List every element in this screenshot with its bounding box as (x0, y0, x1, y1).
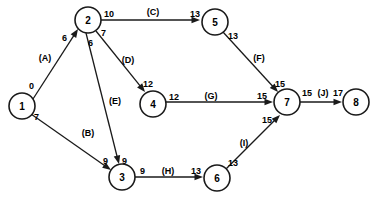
edge-tail-value: 6 (88, 38, 93, 48)
node-7[interactable]: 7 (274, 89, 300, 115)
edge-head-value: 15 (257, 91, 267, 101)
edge-f[interactable]: (F)1315 (223, 31, 285, 92)
edge-line (33, 35, 74, 99)
node-8[interactable]: 8 (343, 89, 369, 115)
activity-label: (I) (240, 138, 249, 148)
activity-label: (C) (147, 7, 160, 17)
edge-tail-value: 0 (29, 81, 34, 91)
activity-label: (H) (162, 166, 175, 176)
node-label: 2 (85, 15, 91, 26)
edge-d[interactable]: (D)712 (96, 28, 153, 92)
diagram-svg: (A)06(B)79(C)1013(D)712(E)69(F)1315(G)12… (0, 0, 380, 208)
edge-tail-value: 7 (34, 112, 39, 122)
activity-label: (B) (82, 128, 95, 138)
edge-head-value: 17 (333, 88, 343, 98)
edge-tail-value: 15 (302, 88, 312, 98)
edge-h[interactable]: (H)913 (135, 166, 203, 180)
arrow-head (334, 99, 343, 106)
network-diagram-canvas: (A)06(B)79(C)1013(D)712(E)69(F)1315(G)12… (0, 0, 380, 208)
edge-head-value: 9 (103, 156, 108, 166)
edge-b[interactable]: (B)79 (31, 112, 111, 170)
activity-label: (A) (39, 53, 52, 63)
node-6[interactable]: 6 (204, 165, 230, 191)
edge-head-value: 13 (191, 166, 201, 176)
activity-label: (G) (205, 91, 218, 101)
edge-head-value: 15 (275, 79, 285, 89)
edge-e[interactable]: (E)69 (86, 33, 127, 166)
edge-i[interactable]: (I)1315 (226, 115, 280, 169)
edge-c[interactable]: (C)1013 (101, 7, 200, 23)
edge-tail-value: 10 (104, 9, 114, 19)
node-label: 5 (212, 17, 218, 28)
edge-tail-value: 7 (101, 28, 106, 38)
node-label: 4 (150, 99, 156, 110)
node-3[interactable]: 3 (109, 164, 135, 190)
node-2[interactable]: 2 (75, 7, 101, 33)
edge-head-value: 6 (62, 33, 67, 43)
edge-a[interactable]: (A)06 (29, 29, 78, 99)
activity-label: (E) (109, 96, 121, 106)
activity-label: (F) (253, 53, 265, 63)
node-label: 7 (284, 97, 290, 108)
edge-tail-value: 13 (228, 158, 238, 168)
edge-tail-value: 12 (169, 92, 179, 102)
node-4[interactable]: 4 (140, 91, 166, 117)
activity-label: (J) (318, 88, 329, 98)
activity-label: (D) (122, 55, 135, 65)
edge-tail-value: 9 (140, 166, 145, 176)
arrow-head (114, 155, 120, 164)
edge-g[interactable]: (G)1215 (166, 91, 273, 105)
node-1[interactable]: 1 (9, 93, 35, 119)
node-label: 3 (119, 172, 125, 183)
node-label: 6 (214, 173, 220, 184)
edge-line (31, 114, 105, 166)
arrow-head (71, 29, 78, 38)
edge-head-value: 12 (143, 79, 153, 89)
node-5[interactable]: 5 (202, 9, 228, 35)
edge-j[interactable]: (J)1517 (300, 88, 343, 105)
edge-tail-value: 13 (228, 31, 238, 41)
node-label: 1 (19, 101, 25, 112)
edge-head-value: 15 (262, 115, 272, 125)
node-label: 8 (353, 97, 359, 108)
edge-head-value: 13 (190, 9, 200, 19)
